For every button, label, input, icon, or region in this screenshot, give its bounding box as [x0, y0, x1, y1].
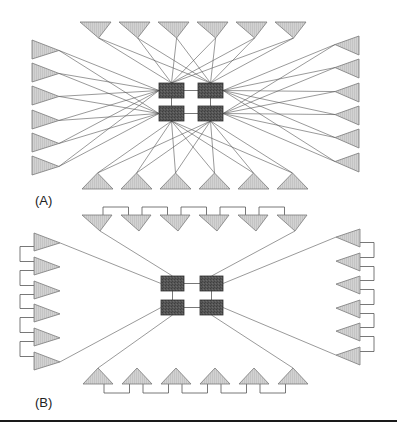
- triangle-node-top: [82, 215, 112, 231]
- triangle-node-left: [34, 304, 60, 322]
- triangle-node-left: [34, 328, 60, 346]
- triangle-node-top: [197, 22, 228, 38]
- triangle-node-bottom: [200, 368, 230, 384]
- switch-node-square: [161, 300, 184, 315]
- triangle-node-right: [335, 36, 359, 55]
- square-switch-nodes: [159, 83, 223, 315]
- triangle-node-right: [335, 129, 359, 148]
- triangle-node-bottom: [278, 368, 308, 384]
- triangle-node-bottom: [199, 173, 230, 189]
- triangle-nodes: [32, 22, 360, 384]
- triangle-node-right: [336, 229, 360, 247]
- triangle-node-top: [236, 22, 267, 38]
- triangle-node-left: [32, 40, 59, 59]
- triangle-node-top: [160, 215, 190, 231]
- triangle-node-bottom: [239, 368, 269, 384]
- switch-node-square: [200, 300, 223, 315]
- triangle-node-bottom: [160, 173, 191, 189]
- triangle-node-left: [34, 257, 60, 275]
- triangle-node-right: [336, 323, 360, 341]
- triangle-node-top: [121, 215, 151, 231]
- triangle-node-right: [335, 106, 359, 125]
- triangle-node-left: [32, 86, 59, 105]
- triangle-node-right: [336, 300, 360, 318]
- triangle-node-left: [34, 233, 60, 251]
- triangle-node-top: [238, 215, 268, 231]
- triangle-node-bottom: [161, 368, 191, 384]
- switch-node-square: [200, 276, 223, 291]
- panel-b-label: (B): [35, 395, 52, 410]
- triangle-node-right: [336, 276, 360, 294]
- bottom-rule: [0, 420, 397, 422]
- switch-node-square: [159, 83, 184, 98]
- triangle-node-left: [32, 63, 59, 82]
- triangle-node-right: [335, 153, 359, 172]
- triangle-node-right: [335, 59, 359, 78]
- connection-lines: [20, 38, 374, 393]
- triangle-node-top: [275, 22, 306, 38]
- triangle-node-bottom: [238, 173, 269, 189]
- triangle-node-top: [199, 215, 229, 231]
- triangle-node-top: [158, 22, 189, 38]
- triangle-node-bottom: [82, 173, 113, 189]
- triangle-node-bottom: [122, 368, 152, 384]
- triangle-node-bottom: [277, 173, 308, 189]
- switch-node-square: [198, 106, 223, 121]
- switch-node-square: [159, 106, 184, 121]
- switch-node-square: [198, 83, 223, 98]
- triangle-node-top: [277, 215, 307, 231]
- triangle-node-right: [336, 347, 360, 365]
- network-topology-diagram: [0, 0, 397, 423]
- triangle-node-right: [335, 83, 359, 102]
- triangle-node-left: [34, 281, 60, 299]
- triangle-node-top: [80, 22, 111, 38]
- triangle-node-top: [119, 22, 150, 38]
- triangle-node-left: [32, 156, 59, 175]
- triangle-node-left: [34, 352, 60, 370]
- triangle-node-left: [32, 133, 59, 152]
- triangle-node-right: [336, 253, 360, 271]
- triangle-node-left: [32, 110, 59, 129]
- switch-node-square: [161, 276, 184, 291]
- panel-a-label: (A): [35, 193, 52, 208]
- triangle-node-bottom: [83, 368, 113, 384]
- triangle-node-bottom: [121, 173, 152, 189]
